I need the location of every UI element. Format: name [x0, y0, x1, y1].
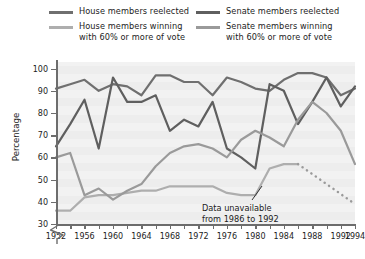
x-tick	[113, 224, 114, 229]
x-tick-label: 1994	[345, 232, 365, 241]
y-tick-label: 40	[38, 197, 48, 206]
x-tick	[198, 224, 199, 229]
x-tick	[184, 224, 185, 229]
chart-legend: House members reelected House members wi…	[0, 0, 365, 52]
y-tick-label: 50	[38, 175, 48, 184]
x-tick	[284, 224, 285, 229]
x-tick-label: 1972	[188, 232, 208, 241]
y-tick-label: 70	[38, 131, 48, 140]
y-axis-title: Percentage	[11, 92, 21, 182]
axis-break-icon	[48, 218, 66, 244]
x-tick-label: 1968	[160, 232, 180, 241]
x-tick-label: 1980	[245, 232, 265, 241]
x-tick	[70, 224, 71, 229]
x-tick	[127, 224, 128, 229]
y-tick	[51, 113, 56, 114]
series-line-house-members-reelected	[56, 73, 355, 95]
x-tick-label: 1960	[103, 232, 123, 241]
y-tick	[51, 69, 56, 70]
legend-label-senate-60pct: Senate members winning with 60% or more …	[226, 21, 333, 42]
x-tick	[99, 224, 100, 229]
y-tick-label: 80	[38, 109, 48, 118]
y-tick	[51, 180, 56, 181]
x-tick-label: 1984	[274, 232, 294, 241]
x-tick	[312, 224, 313, 229]
y-tick	[51, 135, 56, 136]
legend-item-house-reelected: House members reelected	[49, 6, 189, 16]
x-tick-label: 1976	[217, 232, 237, 241]
chart-figure: House members reelected House members wi…	[0, 0, 365, 259]
y-axis-line	[56, 60, 58, 224]
data-unavailable-annotation: Data unavailable from 1986 to 1992	[202, 203, 279, 225]
plot-area: 30405060708090100 1952195619601964196819…	[0, 52, 365, 259]
x-tick	[298, 224, 299, 229]
y-tick-label: 100	[33, 64, 48, 73]
legend-label-senate-reelected: Senate members reelected	[226, 6, 339, 16]
y-tick	[51, 91, 56, 92]
x-tick	[84, 224, 85, 229]
annotation-leader-line	[252, 186, 262, 200]
y-tick	[51, 202, 56, 203]
legend-swatch-house-60pct	[49, 26, 73, 29]
legend-swatch-senate-60pct	[196, 26, 220, 29]
legend-item-senate-60pct: Senate members winning with 60% or more …	[196, 21, 339, 42]
legend-swatch-house-reelected	[49, 11, 73, 14]
legend-item-senate-reelected: Senate members reelected	[196, 6, 339, 16]
legend-column-house: House members reelected House members wi…	[49, 6, 189, 47]
y-tick	[51, 157, 56, 158]
legend-column-senate: Senate members reelected Senate members …	[196, 6, 339, 47]
x-tick-label: 1964	[131, 232, 151, 241]
y-tick-label: 30	[38, 220, 48, 229]
series-line-senate-members-reelected	[56, 78, 355, 169]
x-tick	[170, 224, 171, 229]
y-tick-label: 90	[38, 86, 48, 95]
series-line-senate-members-winning-with-60-or-more-of-vote	[56, 102, 355, 200]
x-tick	[355, 224, 356, 229]
x-tick-label: 1988	[302, 232, 322, 241]
x-tick	[141, 224, 142, 229]
x-tick	[341, 224, 342, 229]
legend-label-house-reelected: House members reelected	[79, 6, 189, 16]
legend-swatch-senate-reelected	[196, 11, 220, 14]
data-unavailable-dotted	[298, 164, 355, 204]
x-tick	[327, 224, 328, 229]
legend-item-house-60pct: House members winning with 60% or more o…	[49, 21, 189, 42]
legend-label-house-60pct: House members winning with 60% or more o…	[79, 21, 185, 42]
x-tick-label: 1956	[74, 232, 94, 241]
y-tick-label: 60	[38, 153, 48, 162]
x-tick	[156, 224, 157, 229]
